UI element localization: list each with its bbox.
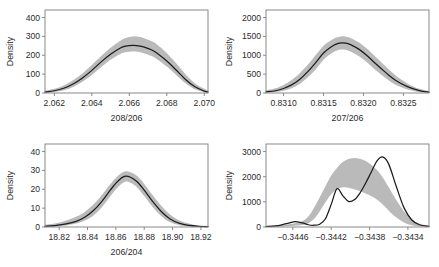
panel-plot-0: 01002003004002.0622.0642.0662.0682.070De… [0, 0, 219, 133]
y-axis-title: Density [5, 170, 15, 200]
y-tick-label: 1500 [242, 31, 261, 41]
x-tick-label: 0.8320 [350, 98, 377, 108]
x-tick-label: 0.8315 [310, 98, 337, 108]
y-tick-label: 200 [26, 50, 41, 60]
density-panel-grid: 01002003004002.0622.0642.0662.0682.070De… [0, 0, 439, 267]
x-tick-label: 2.066 [119, 98, 141, 108]
panel-plot-1: 05001000150020000.83100.83150.83200.8325… [219, 0, 439, 133]
y-tick-label: 10 [30, 203, 40, 213]
panel-top-left: 01002003004002.0622.0642.0662.0682.070De… [0, 0, 219, 133]
x-axis-title: 206/204 [111, 247, 143, 257]
y-tick-label: 40 [30, 147, 40, 157]
x-tick-label: −0.3446 [277, 232, 309, 242]
x-tick-label: 2.068 [156, 98, 178, 108]
y-tick-label: 1000 [242, 50, 261, 60]
y-tick-label: 2000 [242, 13, 261, 23]
y-tick-label: 100 [26, 69, 41, 79]
x-tick-label: −0.3438 [354, 232, 386, 242]
x-tick-label: 18.90 [162, 232, 184, 242]
y-tick-label: 30 [30, 165, 40, 175]
x-tick-label: 0.8310 [270, 98, 297, 108]
y-tick-label: 0 [35, 222, 40, 232]
density-curve [45, 176, 208, 227]
plot-frame [266, 10, 429, 93]
x-tick-label: 18.84 [77, 232, 99, 242]
y-tick-label: 0 [35, 88, 40, 98]
x-tick-label: 18.82 [48, 232, 70, 242]
credible-band [266, 158, 429, 227]
panel-top-right: 05001000150020000.83100.83150.83200.8325… [219, 0, 439, 133]
x-tick-label: 2.062 [44, 98, 66, 108]
x-tick-label: 2.064 [81, 98, 103, 108]
credible-band [45, 171, 208, 227]
y-axis-title: Density [5, 36, 15, 66]
y-axis-title: Density [224, 170, 234, 200]
x-tick-label: 18.88 [133, 232, 155, 242]
y-tick-label: 2000 [242, 172, 261, 182]
y-axis-title: Density [224, 36, 234, 66]
y-tick-label: 0 [256, 222, 261, 232]
y-tick-label: 3000 [242, 147, 261, 157]
credible-band [45, 36, 208, 92]
y-tick-label: 1000 [242, 197, 261, 207]
panel-plot-3: 0100020003000−0.3446−0.3442−0.3438−0.343… [219, 133, 439, 267]
y-tick-label: 300 [26, 31, 41, 41]
x-tick-label: 18.86 [105, 232, 127, 242]
x-axis-title: 208/206 [111, 113, 143, 123]
x-tick-label: 2.070 [193, 98, 215, 108]
x-tick-label: 18.92 [190, 232, 212, 242]
y-tick-label: 500 [247, 69, 262, 79]
panel-plot-2: 01020304018.8218.8418.8618.8818.9018.92D… [0, 133, 219, 267]
panel-bottom-right: 0100020003000−0.3446−0.3442−0.3438−0.343… [219, 133, 439, 267]
credible-band [266, 36, 429, 92]
x-tick-label: −0.3434 [392, 232, 424, 242]
x-tick-label: −0.3442 [316, 232, 348, 242]
panel-bottom-left: 01020304018.8218.8418.8618.8818.9018.92D… [0, 133, 219, 267]
y-tick-label: 20 [30, 184, 40, 194]
y-tick-label: 0 [256, 88, 261, 98]
y-tick-label: 400 [26, 13, 41, 23]
x-axis-title: 207/206 [332, 113, 364, 123]
plot-frame [45, 144, 208, 227]
x-tick-label: 0.8325 [390, 98, 417, 108]
